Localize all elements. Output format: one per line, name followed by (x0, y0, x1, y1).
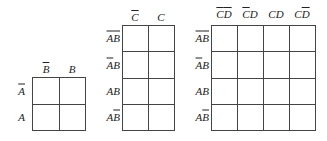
col-label-cbar-d: CD (242, 9, 257, 20)
kmap-3var-grid (122, 25, 175, 131)
row-label-a-b: AB (196, 86, 209, 97)
row-label-a-bbar: AB (107, 112, 120, 123)
col-label-b-bar: B (43, 64, 50, 75)
col-label-cbar-dbar: CD (216, 9, 231, 20)
row-label-a-bar: A (18, 86, 25, 97)
row-label-abar-bbar: AB (196, 33, 209, 44)
row-label-abar-b: AB (107, 60, 120, 71)
row-label-a-b: AB (107, 86, 120, 97)
row-label-abar-bbar: AB (107, 33, 120, 44)
col-label-c-d: CD (268, 9, 283, 20)
kmap-4var-grid (211, 25, 316, 131)
col-label-c-bar: C (131, 12, 138, 23)
row-label-a-bbar: AB (196, 112, 209, 123)
col-label-b: B (69, 64, 76, 75)
kmap-2var-grid (32, 77, 86, 131)
col-label-c: C (157, 12, 164, 23)
row-label-a: A (18, 112, 25, 123)
col-label-c-dbar: CD (294, 9, 309, 20)
row-label-abar-b: AB (196, 60, 209, 71)
